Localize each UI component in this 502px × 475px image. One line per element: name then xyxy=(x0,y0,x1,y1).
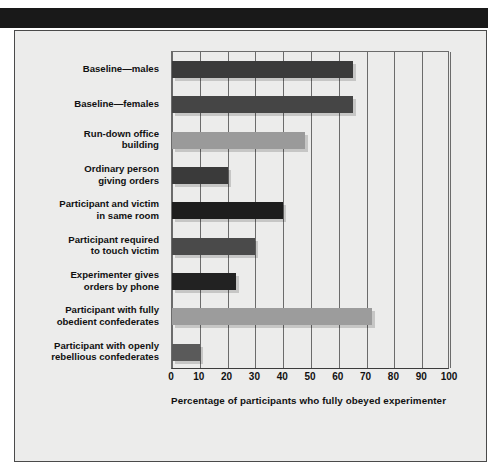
category-label: Participant requiredto touch victim xyxy=(9,234,159,257)
bar-row xyxy=(172,158,448,193)
bar-row xyxy=(172,123,448,158)
bar xyxy=(172,61,353,78)
category-label-line: orders by phone xyxy=(9,281,159,293)
category-label: Ordinary persongiving orders xyxy=(9,163,159,186)
category-label: Participant with fullyobedient confedera… xyxy=(9,304,159,327)
category-label-line: in same room xyxy=(9,210,159,222)
category-label-line: Participant with openly xyxy=(9,340,159,352)
plot-area xyxy=(171,51,449,369)
gridline-100 xyxy=(450,52,451,368)
bar-rows xyxy=(172,52,448,368)
x-axis-ticks: 0102030405060708090100 xyxy=(171,371,449,387)
category-label: Experimenter givesorders by phone xyxy=(9,269,159,292)
bar xyxy=(172,273,236,290)
x-tick-label: 70 xyxy=(360,371,371,382)
bar-row xyxy=(172,264,448,299)
category-label-line: rebellious confederates xyxy=(9,351,159,363)
category-label-line: Ordinary person xyxy=(9,163,159,175)
x-axis-title: Percentage of participants who fully obe… xyxy=(171,395,471,406)
bar-row xyxy=(172,193,448,228)
bar-row xyxy=(172,52,448,87)
x-tick-label: 40 xyxy=(277,371,288,382)
bar xyxy=(172,238,255,255)
category-label-line: obedient confederates xyxy=(9,316,159,328)
bar-row xyxy=(172,335,448,370)
bar xyxy=(172,167,228,184)
category-label: Baseline—males xyxy=(9,63,159,75)
figure-container: Baseline—malesBaseline—femalesRun-down o… xyxy=(0,0,502,475)
bar xyxy=(172,344,200,361)
bar-row xyxy=(172,229,448,264)
category-label: Baseline—females xyxy=(9,98,159,110)
category-label-line: Participant required xyxy=(9,234,159,246)
bar-row xyxy=(172,87,448,122)
category-label-line: building xyxy=(9,139,159,151)
x-tick-label: 0 xyxy=(168,371,174,382)
category-label: Run-down officebuilding xyxy=(9,128,159,151)
bar-row xyxy=(172,299,448,334)
chart-area: Baseline—malesBaseline—femalesRun-down o… xyxy=(15,31,488,463)
category-label-line: Baseline—males xyxy=(9,63,159,75)
x-tick-label: 90 xyxy=(416,371,427,382)
category-label-line: Baseline—females xyxy=(9,98,159,110)
x-tick-label: 80 xyxy=(388,371,399,382)
bar xyxy=(172,202,283,219)
bar xyxy=(172,132,305,149)
category-axis-labels: Baseline—malesBaseline—femalesRun-down o… xyxy=(15,51,165,369)
chart-panel: Baseline—malesBaseline—femalesRun-down o… xyxy=(14,30,487,462)
x-tick-label: 10 xyxy=(193,371,204,382)
x-tick-label: 50 xyxy=(304,371,315,382)
category-label-line: Participant with fully xyxy=(9,304,159,316)
category-label-line: Run-down office xyxy=(9,128,159,140)
category-label: Participant with openlyrebellious confed… xyxy=(9,340,159,363)
bar xyxy=(172,308,372,325)
category-label-line: giving orders xyxy=(9,175,159,187)
x-tick-label: 20 xyxy=(221,371,232,382)
bar xyxy=(172,96,353,113)
x-tick-label: 30 xyxy=(249,371,260,382)
x-tick-label: 60 xyxy=(332,371,343,382)
category-label-line: Experimenter gives xyxy=(9,269,159,281)
category-label-line: to touch victim xyxy=(9,245,159,257)
category-label: Participant and victimin same room xyxy=(9,198,159,221)
category-label-line: Participant and victim xyxy=(9,198,159,210)
top-banner xyxy=(0,8,488,28)
x-tick-label: 100 xyxy=(441,371,458,382)
